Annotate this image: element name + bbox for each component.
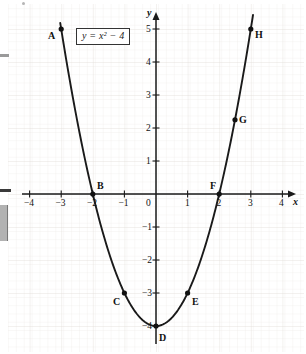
ytick-label-1: 1	[146, 157, 151, 167]
y-axis-label: y	[147, 8, 151, 18]
ytick-label-4: 4	[146, 58, 151, 68]
ytick-label-5: 5	[146, 25, 151, 35]
xtick-label-1: 1	[185, 199, 190, 209]
point-label-E: E	[192, 297, 199, 307]
scan-speck	[22, 2, 25, 5]
xtick-label-minus1: −1	[119, 199, 129, 209]
point-D	[153, 323, 158, 328]
point-label-D: D	[159, 333, 166, 343]
scan-mark-top	[0, 54, 9, 57]
point-F	[217, 191, 222, 196]
ytick-label-2: 2	[146, 124, 151, 134]
ytick-label-minus3: −3	[142, 289, 152, 299]
ytick-label-minus4: −4	[142, 322, 152, 332]
ytick-label-minus1: −1	[142, 223, 152, 233]
point-label-B: B	[97, 181, 104, 191]
scan-mark-middle	[0, 189, 11, 192]
point-label-H: H	[255, 30, 263, 40]
xtick-label-minus3: −3	[56, 199, 66, 209]
xtick-label-minus4: −4	[24, 199, 34, 209]
point-label-G: G	[239, 115, 247, 125]
point-label-C: C	[113, 297, 120, 307]
point-H	[248, 26, 253, 31]
point-label-F: F	[210, 181, 216, 191]
equation-label: y = x² − 4	[76, 28, 130, 45]
x-axis-label: x	[293, 197, 298, 207]
xtick-label-zero: 0	[146, 199, 151, 209]
xtick-label-2: 2	[217, 199, 222, 209]
parabola-plot	[0, 0, 306, 354]
xtick-label-minus2: −2	[87, 199, 97, 209]
scan-mark-block	[0, 205, 8, 241]
point-label-A: A	[48, 31, 55, 41]
xtick-label-4: 4	[279, 199, 284, 209]
point-A	[59, 26, 64, 31]
xtick-label-3: 3	[248, 199, 253, 209]
point-B	[90, 191, 95, 196]
point-C	[122, 290, 127, 295]
point-G	[232, 117, 237, 122]
point-E	[185, 290, 190, 295]
graph-figure: y = x² − 4 y x −4 −3 −2 −1 0 1 2 3 4 5 4…	[0, 0, 306, 354]
ytick-label-3: 3	[146, 91, 151, 101]
ytick-label-minus2: −2	[142, 256, 152, 266]
